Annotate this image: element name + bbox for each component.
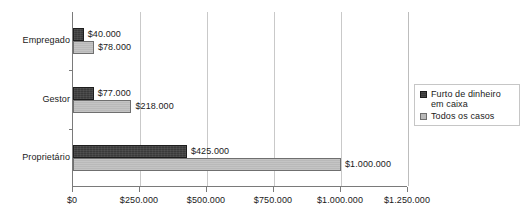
x-axis-tick-500000 (206, 187, 207, 192)
legend-label-series-1: Furto de dinheiro em caixa (431, 89, 501, 109)
x-axis-tick-1250000 (407, 187, 408, 192)
bar-chart: $40.000$78.000$77.000$218.000$425.000$1.… (0, 0, 529, 221)
y-axis-label-gestor: Gestor (0, 94, 70, 104)
legend-item-todos-os-casos: Todos os casos (420, 111, 515, 121)
x-axis-label-1250000: $1.250.000 (384, 195, 430, 205)
legend-label-series-1-line2: em caixa (431, 99, 468, 109)
bar-gestor-series-2 (73, 100, 131, 113)
x-axis-label-250000: $250.000 (120, 195, 158, 205)
bar-value-label: $78.000 (98, 41, 131, 54)
bar-value-label: $40.000 (88, 28, 121, 41)
bar-value-label: $77.000 (98, 87, 131, 100)
legend-item-furto-de-dinheiro-em-caixa: Furto de dinheiro em caixa (420, 89, 515, 109)
bar-value-label: $1.000.000 (345, 158, 391, 171)
y-axis-tick (69, 70, 73, 71)
y-axis-label-proprietrio: Proprietário (0, 152, 70, 162)
x-axis-label-500000: $500.000 (187, 195, 225, 205)
legend-swatch-icon-light (420, 113, 427, 120)
bar-proprietrio-series-2 (73, 158, 341, 171)
legend-label-series-1-line1: Furto de dinheiro (431, 89, 501, 99)
x-axis-tick-0 (72, 187, 73, 192)
x-axis-label-1000000: $1.000.000 (317, 195, 363, 205)
gridline-1250000 (408, 12, 409, 186)
bar-empregado-series-2 (73, 41, 94, 54)
gridline-1000000 (341, 12, 342, 186)
y-axis-tick (69, 129, 73, 130)
y-axis-label-empregado: Empregado (0, 35, 70, 45)
legend-swatch-icon-dark (420, 91, 427, 98)
bar-proprietrio-series-1 (73, 145, 187, 158)
plot-area: $40.000$78.000$77.000$218.000$425.000$1.… (72, 12, 407, 187)
x-axis-tick-750000 (273, 187, 274, 192)
bar-empregado-series-1 (73, 28, 84, 41)
x-axis-label-0: $0 (67, 195, 77, 205)
bar-value-label: $218.000 (135, 100, 173, 113)
legend-label-series-2: Todos os casos (431, 111, 494, 121)
x-axis-label-750000: $750.000 (254, 195, 292, 205)
legend-label-series-2-line1: Todos os casos (431, 111, 494, 121)
x-axis-tick-250000 (139, 187, 140, 192)
x-axis-tick-1000000 (340, 187, 341, 192)
bar-gestor-series-1 (73, 87, 94, 100)
bar-value-label: $425.000 (191, 145, 229, 158)
chart-legend: Furto de dinheiro em caixa Todos os caso… (414, 84, 520, 126)
